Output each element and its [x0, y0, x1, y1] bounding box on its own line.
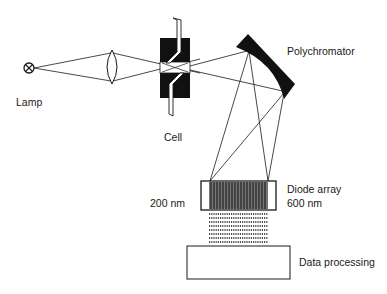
wavelength-max-label: 600 nm — [287, 197, 322, 209]
signal-lines — [209, 214, 268, 242]
data-processing-box — [187, 246, 290, 279]
data-processing-label: Data processing — [299, 256, 375, 268]
diode-array-label: Diode array — [287, 183, 341, 195]
diode-array-icon — [201, 181, 276, 210]
cell-label: Cell — [164, 131, 182, 143]
polychromator-label: Polychromator — [287, 45, 355, 57]
lamp-icon — [24, 63, 34, 73]
lens-icon — [107, 50, 117, 84]
wavelength-min-label: 200 nm — [150, 197, 185, 209]
cell-icon — [160, 18, 190, 116]
lamp-label: Lamp — [16, 96, 42, 108]
polychromator-icon — [236, 34, 295, 99]
